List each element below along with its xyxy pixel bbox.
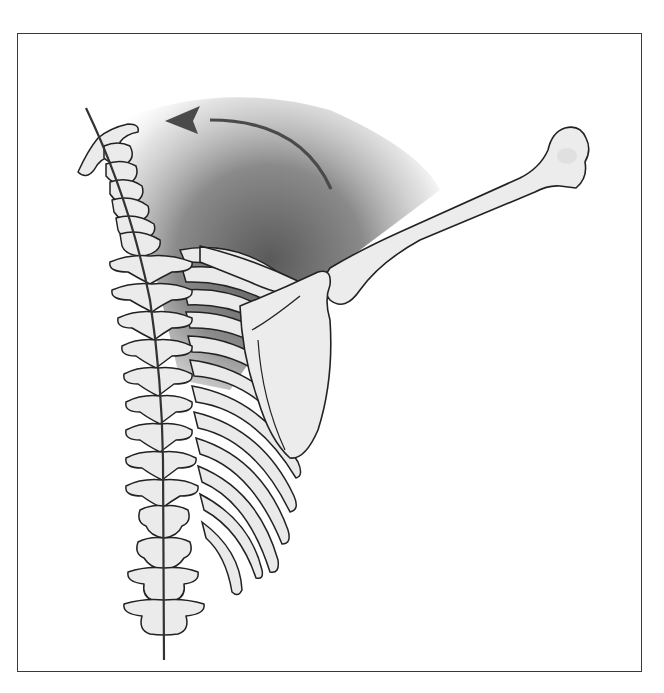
anatomy-illustration [0, 0, 664, 693]
